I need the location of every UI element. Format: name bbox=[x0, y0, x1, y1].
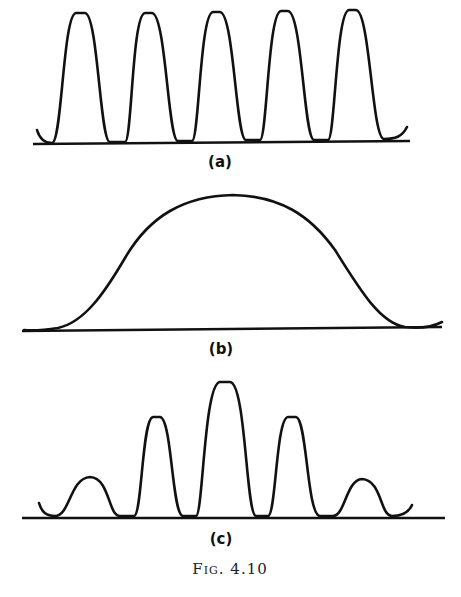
panel-a-curve bbox=[37, 10, 407, 143]
figure-caption: Fig. 4.10 bbox=[192, 560, 267, 578]
panel-b-curve bbox=[24, 195, 442, 330]
panel-a-label: (a) bbox=[208, 153, 232, 171]
panel-c-curve bbox=[39, 382, 412, 516]
figure-canvas bbox=[0, 0, 461, 597]
panel-c-plot bbox=[22, 382, 445, 518]
panel-a-baseline bbox=[33, 141, 410, 144]
panel-b-plot bbox=[22, 195, 442, 331]
panel-b-label: (b) bbox=[209, 340, 233, 358]
panel-b-baseline bbox=[22, 327, 442, 331]
panel-a-plot bbox=[33, 10, 410, 144]
panel-c-label: (c) bbox=[210, 530, 233, 548]
